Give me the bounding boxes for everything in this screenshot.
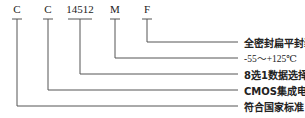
label-device-function: 8选1数据选择器: [244, 67, 305, 82]
label-package: 全密封扁平封装: [244, 35, 305, 50]
label-cmos: CMOS集成电路: [244, 83, 305, 98]
code-cmos: C: [44, 3, 51, 15]
label-national-standard: 符合国家标准: [244, 99, 304, 114]
label-temperature-range: -55～+125℃: [244, 51, 297, 65]
code-temperature-range: M: [110, 3, 120, 15]
code-country-standard: C: [13, 3, 20, 15]
code-package: F: [144, 3, 150, 15]
code-device-number: 14512: [66, 3, 94, 15]
